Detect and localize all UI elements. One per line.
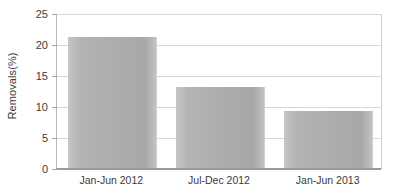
y-tick-label-10: 10 [36, 101, 48, 113]
y-tick-label-20: 20 [36, 39, 48, 51]
x-axis-tick-labels: Jan-Jun 2012Jul-Dec 2012Jan-Jun 2013 [56, 171, 382, 190]
x-tick-label-2: Jan-Jun 2013 [296, 174, 360, 186]
plot-area [56, 14, 382, 169]
bar-0 [68, 37, 157, 168]
y-axis-title-label: Removals(%) [6, 52, 18, 119]
y-axis-title: Removals(%) [0, 0, 24, 172]
x-tick-label-0: Jan-Jun 2012 [80, 174, 144, 186]
bars-layer [57, 15, 381, 168]
bar-1 [176, 87, 265, 168]
x-tick-label-1: Jul-Dec 2012 [188, 174, 250, 186]
y-tickmark-0 [52, 169, 57, 170]
gridline-0 [57, 169, 381, 170]
y-tick-label-5: 5 [42, 132, 48, 144]
y-axis-tick-labels: 0510152025 [24, 0, 52, 172]
y-tick-label-25: 25 [36, 8, 48, 20]
bar-2 [284, 111, 373, 168]
y-tick-label-0: 0 [42, 163, 48, 175]
bar-chart-figure: Removals(%) 0510152025 Jan-Jun 2012Jul-D… [0, 0, 395, 190]
y-tick-label-15: 15 [36, 70, 48, 82]
